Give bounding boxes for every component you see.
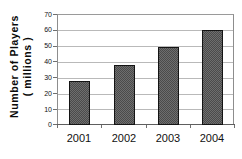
- x-axis-label-2001: 2001: [59, 132, 99, 145]
- y-tick-label-10: 10: [38, 106, 52, 113]
- y-tick-label-40: 40: [38, 58, 52, 65]
- y-axis-title: Number of Players ( millions ): [0, 0, 40, 132]
- x-tick-mark-3: [190, 125, 191, 128]
- x-axis-label-2002: 2002: [104, 132, 144, 145]
- x-tick-mark-1: [101, 125, 102, 128]
- bar-2003: [158, 47, 179, 125]
- x-axis-label-2004: 2004: [192, 132, 232, 145]
- y-axis-title-line1: Number of Players: [8, 15, 20, 118]
- x-tick-mark-2: [146, 125, 147, 128]
- y-tick-label-60: 60: [38, 26, 52, 33]
- x-axis-label-2003: 2003: [148, 132, 188, 145]
- y-tick-label-50: 50: [38, 42, 52, 49]
- bar-2001: [69, 81, 90, 125]
- y-tick-label-0: 0: [38, 121, 52, 128]
- bar-2004: [202, 30, 223, 125]
- y-axis-tick-labels: 70 60 50 40 30 20 10 0: [36, 0, 52, 159]
- bar-2002: [114, 65, 135, 125]
- x-tick-mark-4: [234, 125, 235, 128]
- y-axis-title-line2: ( millions ): [20, 15, 33, 118]
- y-tick-label-20: 20: [38, 90, 52, 97]
- y-tick-label-70: 70: [38, 11, 52, 18]
- bar-chart: Number of Players ( millions ) 70 60 50 …: [0, 0, 242, 159]
- x-tick-mark-0: [57, 125, 58, 128]
- bar-series: [57, 14, 234, 125]
- y-tick-label-30: 30: [38, 74, 52, 81]
